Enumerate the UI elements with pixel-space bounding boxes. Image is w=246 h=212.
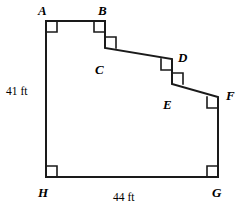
right-angle-mark-D: [161, 59, 172, 70]
vertex-label-B: B: [98, 4, 107, 17]
dimension-label-left: 41 ft: [6, 86, 27, 98]
right-angle-mark-B: [94, 21, 105, 32]
vertex-label-C: C: [95, 63, 104, 76]
polygon-outline: [46, 21, 218, 177]
polygon-drawing: [0, 0, 246, 212]
right-angle-mark-E: [172, 73, 183, 84]
vertex-label-E: E: [163, 98, 172, 111]
right-angle-mark-A: [46, 21, 57, 32]
right-angle-mark-C: [105, 37, 116, 48]
right-angle-mark-H: [46, 166, 57, 177]
right-angle-mark-G: [207, 166, 218, 177]
geometry-figure: A B C D E F G H 41 ft 44 ft: [0, 0, 246, 212]
vertex-label-H: H: [38, 186, 48, 199]
vertex-label-G: G: [212, 186, 221, 199]
vertex-label-F: F: [226, 89, 235, 102]
right-angle-mark-F: [207, 97, 218, 108]
right-angle-marks-group: [46, 21, 218, 177]
dimension-label-bottom: 44 ft: [113, 192, 134, 204]
vertex-label-D: D: [178, 51, 187, 64]
vertex-label-A: A: [38, 4, 47, 17]
